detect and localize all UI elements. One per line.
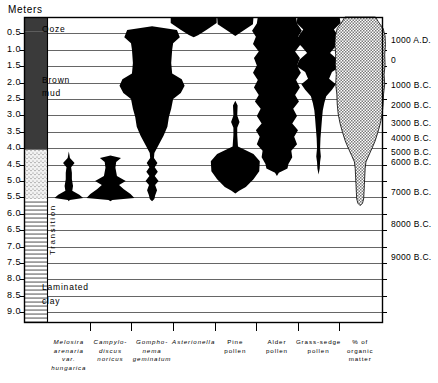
lithology-label-laminated: Laminated bbox=[42, 282, 89, 292]
depth-tick-label: 6.0 bbox=[0, 208, 21, 218]
depth-tick-label: 1.5 bbox=[0, 60, 21, 70]
depth-tick-label: 7.0 bbox=[0, 241, 21, 251]
date-tick-label: 9000 B.C. bbox=[391, 252, 432, 262]
lithology-label-clay: clay bbox=[42, 296, 60, 306]
lithology-label-brown: Brown bbox=[42, 75, 70, 85]
depth-tick-label: 7.5 bbox=[0, 257, 21, 267]
depth-tick-label: 3.5 bbox=[0, 126, 21, 136]
depth-tick-label: 4.5 bbox=[0, 159, 21, 169]
diagram-canvas bbox=[0, 0, 438, 383]
depth-tick-label: 2.0 bbox=[0, 77, 21, 87]
lithology-label-transition: Transition bbox=[48, 204, 57, 255]
depth-tick-label: 3.0 bbox=[0, 109, 21, 119]
stratigraphic-diagram: Meters 0.51.01.52.02.53.03.54.04.55.05.5… bbox=[0, 0, 438, 383]
date-tick-label: 4000 B.C. bbox=[391, 133, 432, 143]
depth-tick-label: 5.0 bbox=[0, 175, 21, 185]
depth-tick-label: 4.0 bbox=[0, 142, 21, 152]
depth-tick-label: 0.5 bbox=[0, 27, 21, 37]
date-tick-label: 1000 A.D. bbox=[391, 35, 431, 45]
date-tick-label: 7000 B.C. bbox=[391, 187, 432, 197]
depth-tick-label: 5.5 bbox=[0, 191, 21, 201]
depth-tick-label: 9.0 bbox=[0, 306, 21, 316]
column-label-7: % of organic matter bbox=[335, 338, 385, 364]
date-tick-label: 8000 B.C. bbox=[391, 219, 432, 229]
depth-tick-label: 6.5 bbox=[0, 224, 21, 234]
date-tick-label: 0 bbox=[391, 55, 396, 65]
depth-tick-label: 2.5 bbox=[0, 93, 21, 103]
date-tick-label: 1000 B.C. bbox=[391, 80, 432, 90]
date-tick-label: 6000 B.C. bbox=[391, 157, 432, 167]
lithology-label-ooze: Ooze bbox=[42, 24, 66, 34]
lithology-label-mud: mud bbox=[42, 88, 61, 98]
date-tick-label: 2000 B.C. bbox=[391, 100, 432, 110]
date-tick-label: 3000 B.C. bbox=[391, 118, 432, 128]
depth-tick-label: 1.0 bbox=[0, 44, 21, 54]
depth-tick-label: 8.0 bbox=[0, 273, 21, 283]
date-tick-label: 5000 B.C. bbox=[391, 147, 432, 157]
depth-tick-label: 8.5 bbox=[0, 290, 21, 300]
